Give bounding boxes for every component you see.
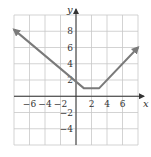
axes: xy [14, 4, 149, 145]
x-axis-label: x [143, 98, 149, 109]
y-tick-label: −4 [60, 124, 74, 134]
y-tick-label: 4 [67, 59, 73, 69]
y-tick-label: 8 [67, 26, 73, 36]
function-graph: xy −6−4−22468642−2−4 [0, 0, 151, 157]
x-tick-label: 4 [104, 99, 110, 109]
x-tick-label: 2 [89, 99, 95, 109]
y-tick-label: 6 [67, 43, 73, 53]
y-tick-label: −2 [60, 108, 73, 118]
x-tick-label: −6 [23, 99, 37, 109]
y-axis-label: y [66, 4, 73, 15]
x-tick-label: −4 [38, 99, 52, 109]
x-tick-label: 6 [120, 99, 126, 109]
